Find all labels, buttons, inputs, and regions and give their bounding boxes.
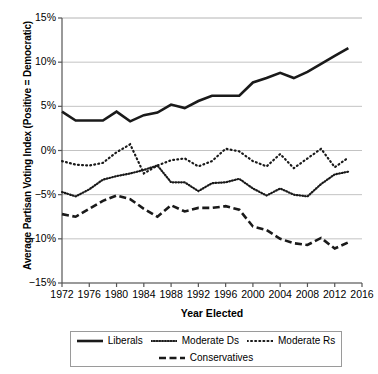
series-line-conservatives	[62, 196, 348, 249]
dashed-line-swatch	[159, 353, 185, 363]
data-series-group	[62, 48, 348, 249]
x-tick-label: 2016	[345, 289, 378, 300]
legend-entry-moderate-rs[interactable]: Moderate Rs	[247, 335, 335, 346]
legend-row-secondary: Conservatives	[71, 349, 341, 366]
legend-label: Conservatives	[190, 352, 253, 363]
legend-entry-liberals[interactable]: Liberals	[77, 335, 143, 346]
coarse-dotted-line-swatch	[247, 336, 273, 346]
series-line-moderate-ds	[62, 166, 348, 197]
legend-label: Liberals	[108, 335, 143, 346]
legend-label: Moderate Rs	[278, 335, 335, 346]
series-line-moderate-rs	[62, 144, 348, 173]
legend-entry-conservatives[interactable]: Conservatives	[159, 352, 253, 363]
series-line-liberals	[62, 48, 348, 121]
legend-entry-moderate-ds[interactable]: Moderate Ds	[151, 335, 239, 346]
legend: LiberalsModerate DsModerate Rs Conservat…	[70, 331, 342, 367]
solid-line-swatch	[77, 336, 103, 346]
partisan-voting-index-line-chart: Average Partisan Voting Index (Positive …	[0, 0, 378, 374]
x-axis-title: Year Elected	[62, 307, 362, 319]
legend-label: Moderate Ds	[182, 335, 239, 346]
fine-dotted-line-swatch	[151, 336, 177, 346]
legend-row-primary: LiberalsModerate DsModerate Rs	[71, 332, 341, 349]
